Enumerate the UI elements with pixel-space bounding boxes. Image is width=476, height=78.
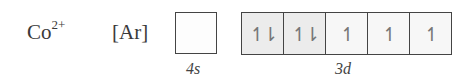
label-3d: 3d <box>335 60 351 78</box>
orbital-box-4s <box>175 12 217 54</box>
ion-charge: 2+ <box>52 17 66 32</box>
orbital-box-3d-5: ↿ <box>410 13 451 54</box>
noble-gas-core: [Ar] <box>112 20 148 45</box>
orbital-box-3d-2: ↿⇂ <box>284 13 326 54</box>
label-4s: 4s <box>186 60 200 78</box>
orbital-box-3d-4: ↿ <box>368 13 410 54</box>
orbital-box-3d-1: ↿⇂ <box>242 13 284 54</box>
element-symbol: Co <box>27 20 52 44</box>
ion-symbol: Co2+ <box>27 20 65 45</box>
orbital-group-3d: ↿⇂ ↿⇂ ↿ ↿ ↿ <box>241 12 452 55</box>
orbital-box-3d-3: ↿ <box>326 13 368 54</box>
